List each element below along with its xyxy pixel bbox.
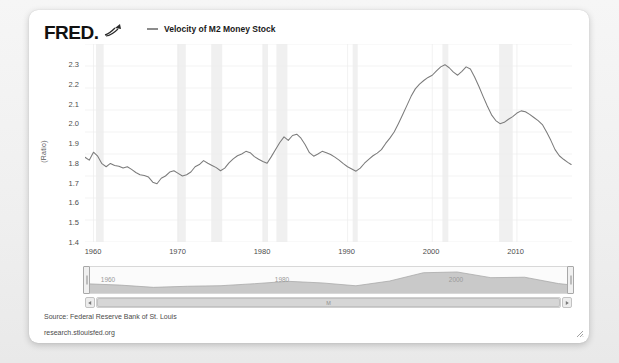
horizontal-gridlines [85, 44, 572, 242]
y-tick-2.3: 2.3 [49, 60, 79, 69]
scrollbar-thumb[interactable]: M [97, 298, 560, 307]
resize-grip-icon[interactable] [576, 330, 584, 338]
y-tick-2.0: 2.0 [49, 119, 79, 128]
handle-grip-icon [86, 276, 87, 285]
source-attribution: Source: Federal Reserve Bank of St. Loui… [44, 313, 177, 320]
x-tick-1990: 1990 [338, 247, 355, 256]
horizontal-scrollbar[interactable]: M [85, 297, 572, 308]
x-tick-1970: 1970 [169, 247, 186, 256]
y-axis-title: (Ratio) [40, 122, 47, 182]
y-tick-1.5: 1.5 [49, 218, 79, 227]
handle-grip-icon [570, 276, 571, 285]
series-line-velocity-m2 [85, 65, 571, 184]
navigator-year-mid: 1980 [275, 276, 289, 283]
y-tick-1.4: 1.4 [49, 238, 79, 247]
chart-legend[interactable]: Velocity of M2 Money Stock [147, 24, 275, 34]
y-tick-1.9: 1.9 [49, 139, 79, 148]
legend-series-label: Velocity of M2 Money Stock [164, 24, 275, 34]
x-tick-2010: 2010 [507, 247, 524, 256]
y-tick-1.7: 1.7 [49, 178, 79, 187]
range-handle-right[interactable] [567, 266, 574, 294]
scroll-right-button[interactable] [562, 297, 572, 308]
trend-line-icon [104, 23, 124, 37]
scrollbar-thumb-label: M [326, 300, 331, 306]
x-tick-1980: 1980 [254, 247, 271, 256]
fred-chart-card: FRED. Velocity of M2 Money Stock (Ratio)… [29, 10, 589, 343]
plot-area: (Ratio) 2.3 2.2 2.1 2.0 1.9 1.8 1.7 1.6 … [29, 44, 589, 259]
range-handle-left[interactable] [83, 266, 90, 294]
chevron-right-icon [566, 301, 569, 305]
fred-logo: FRED. [44, 23, 99, 42]
source-url[interactable]: research.stlouisfed.org [44, 329, 115, 336]
x-tick-2000: 2000 [423, 247, 440, 256]
legend-color-swatch [147, 28, 158, 30]
vertical-gridlines [93, 44, 516, 242]
fred-logo-text: FRED [44, 22, 94, 43]
navigator-year-left: 1960 [101, 276, 115, 283]
navigator-area-chart [86, 267, 571, 293]
x-tick-1960: 1960 [85, 247, 102, 256]
scroll-left-button[interactable] [85, 297, 95, 308]
navigator-year-right: 2000 [449, 276, 463, 283]
chart-header: FRED. Velocity of M2 Money Stock [29, 10, 589, 48]
y-tick-1.6: 1.6 [49, 198, 79, 207]
chevron-left-icon [88, 301, 91, 305]
y-tick-2.1: 2.1 [49, 99, 79, 108]
line-chart-canvas[interactable] [85, 44, 572, 242]
scrollbar-track[interactable]: M [96, 297, 561, 308]
fred-logo-dot: . [94, 22, 99, 43]
y-tick-2.2: 2.2 [49, 79, 79, 88]
range-navigator[interactable]: 1960 1980 2000 [85, 266, 572, 294]
y-tick-1.8: 1.8 [49, 158, 79, 167]
